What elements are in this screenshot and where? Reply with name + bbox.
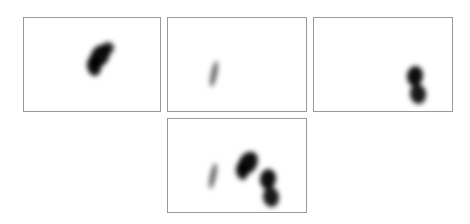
blob-shape: [207, 163, 218, 190]
blob-shape: [208, 61, 219, 88]
blob-shape: [261, 186, 280, 208]
image-panel-2: [167, 17, 307, 112]
blob-shape: [408, 83, 427, 105]
blob-shape: [405, 65, 424, 87]
image-panel-1: [23, 17, 161, 112]
blob-shape: [102, 42, 114, 54]
blob-shape: [258, 168, 277, 190]
image-panel-4: [167, 118, 307, 213]
image-panel-3: [313, 17, 453, 112]
